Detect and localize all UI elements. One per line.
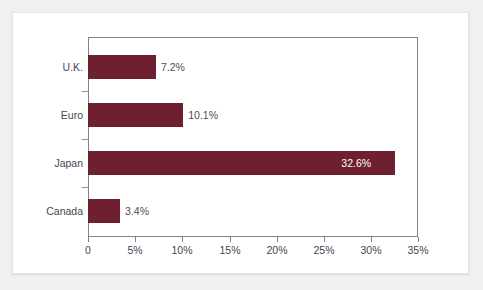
bar-value-japan: 32.6% bbox=[341, 151, 371, 175]
x-axis-label-15: 15% bbox=[210, 244, 250, 256]
bar-row-uk: 7.2% bbox=[88, 55, 418, 79]
x-axis-tick-30 bbox=[371, 237, 372, 242]
bar-uk[interactable] bbox=[88, 55, 156, 79]
category-label-euro: Euro bbox=[61, 103, 83, 127]
scanned-page-background: U.K. Euro Japan Canada 7.2% 10.1% 32.6% bbox=[0, 0, 483, 290]
bar-value-uk: 7.2% bbox=[161, 55, 185, 79]
x-axis-tick-35 bbox=[418, 237, 419, 242]
bar-canada[interactable] bbox=[88, 199, 120, 223]
x-axis-label-5: 5% bbox=[115, 244, 155, 256]
x-axis-tick-10 bbox=[182, 237, 183, 242]
bar-value-euro: 10.1% bbox=[188, 103, 218, 127]
bar-row-euro: 10.1% bbox=[88, 103, 418, 127]
x-axis-tick-5 bbox=[135, 237, 136, 242]
x-axis-tick-20 bbox=[277, 237, 278, 242]
bar-row-japan: 32.6% bbox=[88, 151, 418, 175]
x-axis-tick-25 bbox=[324, 237, 325, 242]
category-label-uk: U.K. bbox=[63, 55, 83, 79]
x-axis-label-25: 25% bbox=[304, 244, 344, 256]
bar-euro[interactable] bbox=[88, 103, 183, 127]
bar-value-canada: 3.4% bbox=[125, 199, 149, 223]
horizontal-bar-chart: U.K. Euro Japan Canada 7.2% 10.1% 32.6% bbox=[0, 0, 483, 290]
x-axis-label-0: 0 bbox=[68, 244, 108, 256]
x-axis-label-10: 10% bbox=[162, 244, 202, 256]
x-axis-tick-15 bbox=[230, 237, 231, 242]
x-axis-label-35: 35% bbox=[398, 244, 438, 256]
category-label-canada: Canada bbox=[46, 199, 83, 223]
bar-row-canada: 3.4% bbox=[88, 199, 418, 223]
category-label-japan: Japan bbox=[54, 151, 83, 175]
x-axis-label-20: 20% bbox=[257, 244, 297, 256]
plot-area: 7.2% 10.1% 32.6% 3.4% bbox=[88, 37, 418, 237]
x-axis-tick-0 bbox=[88, 237, 89, 242]
x-axis-label-30: 30% bbox=[351, 244, 391, 256]
